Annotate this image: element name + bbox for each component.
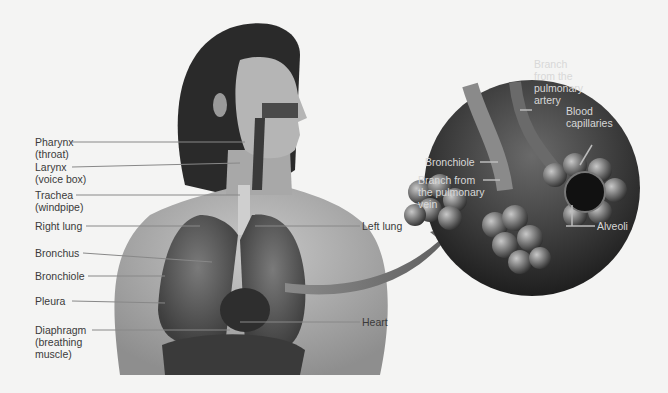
label-larynx: Larynx (voice box) bbox=[35, 161, 86, 185]
label-pharynx: Pharynx (throat) bbox=[35, 136, 74, 160]
label-branch-artery: Branch from the pulmonary artery bbox=[534, 58, 583, 106]
label-bronchus: Bronchus bbox=[35, 247, 79, 259]
label-right-lung: Right lung bbox=[35, 220, 82, 232]
label-pleura: Pleura bbox=[35, 295, 65, 307]
label-branch-vein: Branch from the pulmonary vein bbox=[418, 174, 485, 210]
label-trachea: Trachea (windpipe) bbox=[35, 189, 83, 213]
label-alveoli: Alveoli bbox=[597, 220, 628, 232]
label-left-lung: Left lung bbox=[362, 220, 402, 232]
label-capillaries: Blood capillaries bbox=[566, 105, 613, 129]
label-inset-bronchiole: Bronchiole bbox=[425, 156, 475, 168]
label-bronchiole: Bronchiole bbox=[35, 270, 85, 282]
label-diaphragm: Diaphragm (breathing muscle) bbox=[35, 324, 86, 360]
label-heart: Heart bbox=[362, 316, 388, 328]
respiratory-diagram: Pharynx (throat) Larynx (voice box) Trac… bbox=[0, 0, 668, 393]
